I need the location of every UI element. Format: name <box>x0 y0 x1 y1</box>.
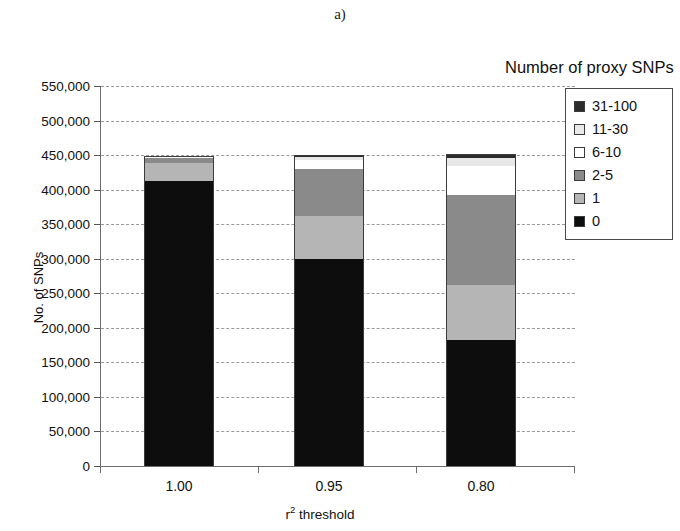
y-axis-tick-label: 50,000 <box>8 424 90 439</box>
legend-item-label: 31-100 <box>592 99 637 114</box>
bar-segment[interactable] <box>446 158 516 166</box>
bar-segment[interactable] <box>294 160 364 169</box>
y-axis-tick-label: 400,000 <box>8 182 90 197</box>
bar-segment[interactable] <box>446 285 516 340</box>
legend-swatch-1 <box>574 193 585 204</box>
legend-swatch-31-100 <box>574 101 585 112</box>
bar-segment[interactable] <box>446 154 516 157</box>
y-axis-line <box>100 86 101 467</box>
bar-segment[interactable] <box>144 181 214 466</box>
x-axis-line <box>100 466 575 467</box>
legend: 31-10011-306-102-510 <box>565 88 673 240</box>
bar-segment[interactable] <box>294 259 364 466</box>
bar-segment[interactable] <box>294 157 364 160</box>
y-axis-tick-label: 250,000 <box>8 286 90 301</box>
legend-item[interactable]: 31-100 <box>574 95 672 118</box>
y-axis-tick-label: 300,000 <box>8 251 90 266</box>
x-axis-title: r2 threshold <box>0 504 640 522</box>
bar-segment[interactable] <box>446 195 516 285</box>
x-axis-tick-label: 0.95 <box>269 478 389 494</box>
x-axis-title-rest: threshold <box>295 507 354 522</box>
x-axis-tick-label: 1.00 <box>119 478 239 494</box>
legend-title: Number of proxy SNPs <box>505 58 674 77</box>
bar-segment[interactable] <box>294 216 364 259</box>
y-axis-tick-label: 550,000 <box>8 79 90 94</box>
y-axis-tick-label: 500,000 <box>8 113 90 128</box>
legend-swatch-0 <box>574 216 585 227</box>
y-axis-tick-label: 200,000 <box>8 320 90 335</box>
y-axis-tick-label: 450,000 <box>8 148 90 163</box>
bar-segment[interactable] <box>144 163 214 181</box>
legend-swatch-2-5 <box>574 170 585 181</box>
legend-item-label: 2-5 <box>592 168 613 183</box>
x-axis-tick-mark <box>100 466 101 473</box>
bar-segment[interactable] <box>144 158 214 164</box>
bar-segment[interactable] <box>294 155 364 157</box>
y-axis-tick-label: 100,000 <box>8 389 90 404</box>
legend-item[interactable]: 1 <box>574 187 672 210</box>
x-axis-tick-label: 0.80 <box>421 478 541 494</box>
legend-item-label: 1 <box>592 191 600 206</box>
bar-stack[interactable] <box>144 86 214 466</box>
legend-item[interactable]: 2-5 <box>574 164 672 187</box>
bar-stack[interactable] <box>294 86 364 466</box>
x-axis-tick-mark <box>574 466 575 473</box>
y-axis-tick-label: 0 <box>8 459 90 474</box>
y-axis-tick-label: 150,000 <box>8 355 90 370</box>
legend-item[interactable]: 0 <box>574 210 672 233</box>
bar-segment[interactable] <box>294 169 364 216</box>
y-axis-tick-label: 350,000 <box>8 217 90 232</box>
bar-segment[interactable] <box>144 156 214 157</box>
legend-swatch-11-30 <box>574 124 585 135</box>
bar-segment[interactable] <box>446 166 516 195</box>
legend-item-label: 11-30 <box>592 122 628 137</box>
bar-stack[interactable] <box>446 86 516 466</box>
bar-segment[interactable] <box>446 340 516 466</box>
x-axis-tick-mark <box>258 466 259 473</box>
legend-item-label: 6-10 <box>592 145 621 160</box>
x-axis-tick-mark <box>416 466 417 473</box>
legend-item[interactable]: 11-30 <box>574 118 672 141</box>
legend-item-label: 0 <box>592 214 600 229</box>
legend-item[interactable]: 6-10 <box>574 141 672 164</box>
legend-swatch-6-10 <box>574 147 585 158</box>
chart-plot-area: No. of SNPs 050,000100,000150,000200,000… <box>0 0 680 531</box>
